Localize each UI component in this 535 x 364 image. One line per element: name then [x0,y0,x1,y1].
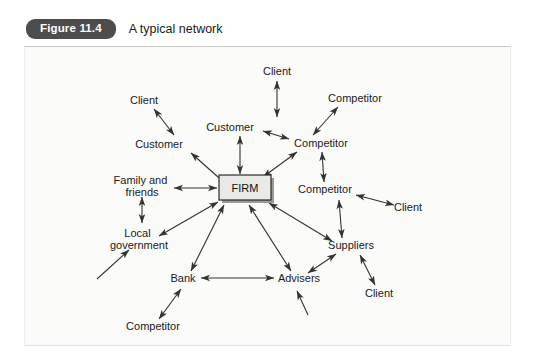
edge-competitor-right1--competitor-right2 [322,152,324,182]
edge-customer-top--competitor-right1 [263,131,289,139]
node-family-and-friends-line2: friends [125,186,159,198]
node-local-government-line2: government [110,239,168,251]
figure-number-badge: Figure 11.4 [26,19,116,40]
network-diagram: FIRM Client Client Competitor Customer C… [25,47,511,346]
node-competitor-right1[interactable]: Competitor [294,137,348,149]
edge-suppliers--client-bottomright [360,255,375,285]
node-local-government-line1: Local [124,227,150,239]
edge-competitor-right1--firm [263,152,297,177]
edge-competitor-right2--client-right [356,195,394,205]
node-client-upperleft[interactable]: Client [130,94,158,106]
figure-frame: FIRM Client Client Competitor Customer C… [24,46,511,346]
edge-competitor-right2--suppliers [339,200,342,238]
edge-advisers--firm [249,205,291,271]
node-advisers[interactable]: Advisers [278,272,321,284]
node-client-bottomright[interactable]: Client [365,287,393,299]
stray-edge-into-advisers [297,291,308,315]
node-client-right[interactable]: Client [394,201,422,213]
node-competitor-bottom[interactable]: Competitor [126,320,180,332]
node-competitor-topright[interactable]: Competitor [328,92,382,104]
node-suppliers[interactable]: Suppliers [328,239,374,251]
edge-competitor-topright--competitor-right1 [313,107,338,135]
node-client-top[interactable]: Client [263,65,291,77]
edge-advisers--suppliers [308,254,336,273]
node-customer-top[interactable]: Customer [206,121,254,133]
edge-client-upperleft--customer-left [154,109,174,135]
firm-node[interactable]: FIRM [219,175,274,203]
stray-edge-into-local-government [97,250,129,279]
node-customer-left[interactable]: Customer [135,138,183,150]
figure-caption-bar: Figure 11.4 A typical network [26,18,223,40]
figure-title: A typical network [129,23,223,36]
node-family-and-friends-line1: Family and [114,174,168,186]
node-competitor-right2[interactable]: Competitor [298,183,352,195]
node-local-government[interactable]: Local government [110,227,168,251]
edge-local-government--firm [159,202,218,236]
edge-bank--competitor-bottom [159,289,181,319]
firm-label: FIRM [232,182,259,194]
node-family-and-friends[interactable]: Family and friends [114,174,171,198]
edge-suppliers--firm [269,203,332,241]
node-bank[interactable]: Bank [170,272,196,284]
